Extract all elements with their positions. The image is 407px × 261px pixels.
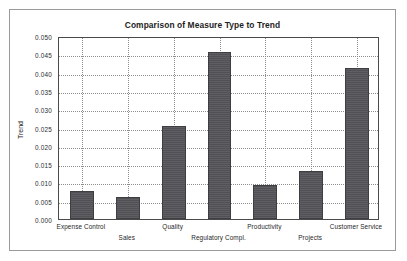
bar: [70, 191, 94, 219]
y-tick-label: 0.000: [35, 217, 52, 224]
plot-area: [58, 37, 379, 220]
gridline-vertical: [128, 38, 129, 219]
bar: [253, 185, 277, 219]
y-axis-tick-labels: 0.0000.0050.0100.0150.0200.0250.0300.035…: [10, 37, 56, 220]
y-tick-label: 0.050: [35, 34, 52, 41]
chart-figure: Comparison of Measure Type to Trend Tren…: [9, 9, 396, 251]
x-tick-label: Projects: [298, 234, 322, 241]
x-tick-label: Sales: [119, 234, 136, 241]
x-tick-label: Expense Control: [57, 223, 106, 230]
y-tick-label: 0.045: [35, 52, 52, 59]
chart-title: Comparison of Measure Type to Trend: [10, 20, 395, 30]
y-tick-label: 0.035: [35, 88, 52, 95]
y-tick-label: 0.015: [35, 162, 52, 169]
y-tick-label: 0.020: [35, 143, 52, 150]
y-tick-label: 0.025: [35, 125, 52, 132]
y-tick-label: 0.040: [35, 70, 52, 77]
x-tick-label: Productivity: [247, 223, 281, 230]
bar: [162, 126, 186, 219]
bar: [345, 68, 369, 219]
x-tick-label: Quality: [162, 223, 183, 230]
y-tick-label: 0.005: [35, 198, 52, 205]
x-tick-label: Customer Service: [330, 223, 382, 230]
x-tick-label: Regulatory Compl.: [191, 234, 246, 241]
x-axis-tick-labels: Expense ControlSalesQualityRegulatory Co…: [58, 220, 379, 250]
bar: [116, 197, 140, 219]
bar: [208, 52, 232, 219]
y-tick-label: 0.030: [35, 107, 52, 114]
bar: [299, 171, 323, 219]
y-tick-label: 0.010: [35, 180, 52, 187]
